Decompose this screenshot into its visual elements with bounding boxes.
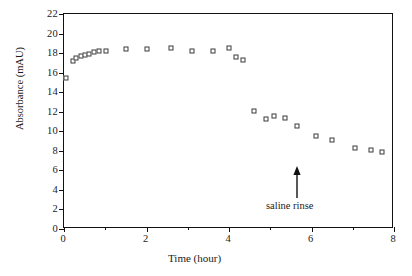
data-point: [282, 115, 287, 120]
data-point: [234, 55, 239, 60]
data-point: [295, 124, 300, 129]
data-point: [227, 46, 232, 51]
data-point: [97, 49, 102, 54]
x-tick: [312, 227, 313, 232]
x-tick: [147, 227, 148, 232]
y-tick: [59, 131, 64, 132]
y-tick: [59, 34, 64, 35]
y-tick-label: 12: [47, 105, 58, 116]
y-tick-label: 4: [53, 183, 58, 194]
y-tick-label: 2: [53, 203, 58, 214]
chart-figure: 0246810121416182022 Absorbance (mAU) sal…: [0, 0, 412, 276]
plot-area: saline rinse: [63, 13, 393, 228]
y-tick-label: 8: [53, 144, 58, 155]
x-axis-title: Time (hour): [168, 252, 221, 264]
data-point: [272, 113, 277, 118]
data-point: [104, 49, 109, 54]
x-tick: [229, 227, 230, 232]
data-point: [91, 50, 96, 55]
y-tick: [59, 112, 64, 113]
data-point: [189, 49, 194, 54]
y-axis-tick-labels: 0246810121416182022: [0, 13, 58, 228]
data-point: [241, 57, 246, 62]
y-tick-label: 0: [53, 223, 58, 234]
y-tick: [59, 190, 64, 191]
x-minor-tick: [188, 227, 189, 230]
x-tick-label: 4: [225, 233, 230, 244]
up-arrow-icon: [292, 166, 302, 198]
y-tick: [59, 92, 64, 93]
data-point: [264, 116, 269, 121]
y-tick: [59, 209, 64, 210]
y-tick: [59, 73, 64, 74]
y-tick: [59, 53, 64, 54]
data-point: [369, 147, 374, 152]
y-tick-label: 14: [47, 86, 58, 97]
data-point: [379, 149, 384, 154]
x-minor-tick: [270, 227, 271, 230]
data-point: [330, 138, 335, 143]
data-point: [63, 75, 68, 80]
y-tick: [59, 14, 64, 15]
data-point: [352, 145, 357, 150]
y-tick-label: 10: [47, 125, 58, 136]
saline-rinse-label: saline rinse: [266, 200, 314, 211]
data-point: [210, 49, 215, 54]
x-minor-tick: [353, 227, 354, 230]
x-tick-label: 6: [308, 233, 313, 244]
x-tick-label: 0: [60, 233, 65, 244]
x-minor-tick: [105, 227, 106, 230]
y-axis-title: Absorbance (mAU): [14, 19, 25, 159]
data-point: [313, 134, 318, 139]
y-tick-label: 6: [53, 164, 58, 175]
y-tick: [59, 170, 64, 171]
x-tick-label: 8: [390, 233, 395, 244]
x-tick: [64, 227, 65, 232]
y-tick-label: 20: [47, 27, 58, 38]
data-point: [251, 108, 256, 113]
y-tick-label: 18: [47, 47, 58, 58]
y-tick-label: 22: [47, 8, 58, 19]
x-tick-label: 2: [143, 233, 148, 244]
x-tick: [394, 227, 395, 232]
data-point: [144, 47, 149, 52]
data-point: [169, 46, 174, 51]
data-point: [123, 47, 128, 52]
y-tick-label: 16: [47, 66, 58, 77]
y-tick: [59, 151, 64, 152]
